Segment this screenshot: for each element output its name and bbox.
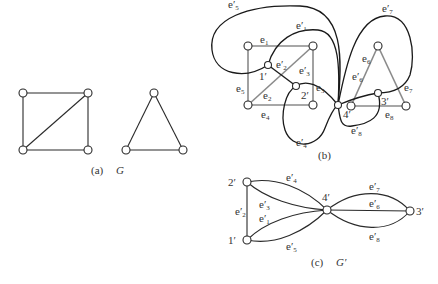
graph-duality-figure: (a) G xyxy=(0,0,438,284)
label-e1p: e′1 xyxy=(296,19,307,33)
dual-edge-e8p xyxy=(327,210,410,227)
label-e7p: e′7 xyxy=(369,180,380,194)
panel-c-dual-graph: 2′ 1′ 4′ 3′ e′2 e′3 e′1 e′4 e′5 e′7 e′6 … xyxy=(228,171,424,269)
panel-b-plane-dual-construction: e1 e2 e3 e4 e5 e6 e7 e8 e′1 e′2 e′3 e′4 … xyxy=(212,0,413,162)
label-v1p: 1′ xyxy=(228,234,236,246)
label-e4p: e′4 xyxy=(286,171,297,185)
label-e7p: e′7 xyxy=(382,2,393,16)
primal-vertex xyxy=(402,102,410,110)
vertex xyxy=(84,89,92,97)
caption-tag-b: (b) xyxy=(318,149,331,162)
label-v2p: 2′ xyxy=(301,89,309,101)
vertex xyxy=(179,146,187,154)
label-v4p: 4′ xyxy=(343,108,351,120)
label-e8p: e′8 xyxy=(351,124,362,138)
label-v3p: 3′ xyxy=(416,205,424,217)
label-e8p: e′8 xyxy=(369,230,380,244)
label-e2p: e′2 xyxy=(235,205,246,219)
label-e2: e2 xyxy=(263,89,272,103)
caption-tag-c: (c) xyxy=(311,256,324,269)
label-e4p: e′4 xyxy=(296,136,307,150)
edge xyxy=(154,93,183,150)
vertex xyxy=(19,89,27,97)
label-e5: e5 xyxy=(236,82,245,96)
dual-vertex-1p xyxy=(265,62,272,69)
dual-vertex-4p xyxy=(335,102,342,109)
label-e7: e7 xyxy=(404,81,413,95)
label-e1p: e′1 xyxy=(259,212,270,226)
primal-vertex xyxy=(309,42,317,50)
vertex-2p xyxy=(243,178,251,186)
label-v4p: 4′ xyxy=(322,191,330,203)
primal-vertex xyxy=(244,42,252,50)
primal-vertex xyxy=(244,101,252,109)
vertex xyxy=(150,89,158,97)
panel-a-graph-g: (a) G xyxy=(19,89,187,177)
label-v2p: 2′ xyxy=(228,176,236,188)
label-e6p: e′6 xyxy=(369,197,380,211)
label-e3: e3 xyxy=(316,81,325,95)
vertex xyxy=(122,146,130,154)
label-e5p: e′5 xyxy=(228,0,239,12)
label-e4: e4 xyxy=(261,108,270,122)
vertex-3p xyxy=(406,207,414,215)
vertex-4p xyxy=(323,206,331,214)
label-v1p: 1′ xyxy=(259,70,267,82)
diagonal-edge xyxy=(23,93,88,150)
vertex-1p xyxy=(243,236,251,244)
label-e3p: e′3 xyxy=(299,64,310,78)
caption-name-a: G xyxy=(116,164,124,176)
dual-edge-e6p xyxy=(338,93,378,105)
label-e3p: e′3 xyxy=(259,198,270,212)
primal-vertex xyxy=(374,42,382,50)
vertex xyxy=(84,146,92,154)
label-e1: e1 xyxy=(260,33,269,47)
label-e8: e8 xyxy=(385,108,394,122)
edge xyxy=(126,93,154,150)
label-e2p: e′2 xyxy=(276,58,287,72)
caption-tag-a: (a) xyxy=(91,164,104,177)
dual-vertex-2p xyxy=(293,83,300,90)
label-v3p: 3′ xyxy=(381,95,389,107)
caption-name-c: G′ xyxy=(336,256,347,268)
label-e6p: e′6 xyxy=(352,70,363,84)
label-e5p: e′5 xyxy=(286,240,297,254)
dual-edge-e4p xyxy=(283,86,338,144)
label-e6: e6 xyxy=(362,52,371,66)
primal-vertex xyxy=(309,101,317,109)
vertex xyxy=(19,146,27,154)
dual-edge-e6p xyxy=(327,210,410,211)
